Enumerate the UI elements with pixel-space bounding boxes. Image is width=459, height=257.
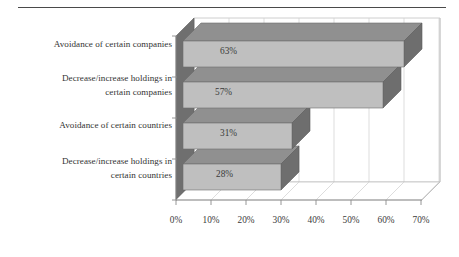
xtick-label-1: 10% — [202, 215, 219, 225]
xtick-label-7: 70% — [412, 215, 429, 225]
xtick-label-2: 20% — [237, 215, 254, 225]
bar-2-front — [183, 123, 292, 149]
category-label-3: Decrease/increase holdings in certain co… — [4, 155, 172, 182]
x-axis-ticks — [176, 200, 421, 205]
value-label-3: 28% — [216, 169, 233, 179]
bar-1 — [183, 64, 401, 108]
category-axis-labels: Avoidance of certain companies Decrease/… — [4, 18, 172, 210]
bar-2 — [183, 105, 310, 149]
chart-figure: Avoidance of certain companies Decrease/… — [0, 0, 459, 257]
bar-0 — [183, 23, 422, 67]
plot-area: 63% 57% 31% 28% — [172, 14, 447, 214]
plot-svg — [172, 14, 447, 214]
xtick-label-4: 40% — [307, 215, 324, 225]
xtick-label-5: 50% — [342, 215, 359, 225]
bar-1-front — [183, 82, 383, 108]
bar-3 — [183, 146, 299, 190]
category-label-2: Avoidance of certain countries — [4, 119, 172, 133]
xtick-label-6: 60% — [377, 215, 394, 225]
value-label-2: 31% — [220, 128, 237, 138]
bar-0-top — [183, 23, 422, 41]
xtick-label-0: 0% — [170, 215, 182, 225]
bar-0-front — [183, 41, 404, 67]
xtick-label-3: 30% — [272, 215, 289, 225]
value-label-0: 63% — [220, 46, 237, 56]
value-label-1: 57% — [215, 87, 232, 97]
category-label-0: Avoidance of certain companies — [4, 38, 172, 52]
top-divider-rule — [18, 7, 446, 8]
category-label-1: Decrease/increase holdings in certain co… — [4, 72, 172, 99]
x-axis-tick-labels: 0% 10% 20% 30% 40% 50% 60% 70% — [172, 215, 452, 237]
